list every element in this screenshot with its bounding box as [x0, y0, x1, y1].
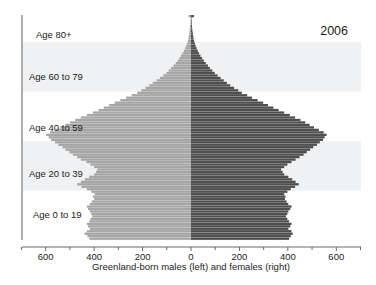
male-bar [92, 200, 191, 202]
female-bar [191, 99, 258, 101]
female-bar [191, 94, 247, 96]
female-bar [191, 195, 285, 197]
female-bar [191, 131, 324, 133]
female-bar [191, 233, 293, 235]
male-bar [82, 186, 191, 188]
female-bar [191, 161, 291, 163]
male-bar [186, 45, 191, 47]
age-label-40-59: Age 40 to 59 [29, 122, 83, 133]
male-bar [81, 116, 191, 118]
male-bar [86, 161, 191, 163]
male-bar [91, 213, 191, 215]
female-bar [191, 208, 290, 210]
male-bar [90, 203, 191, 205]
female-bar [191, 178, 292, 180]
female-bar [191, 218, 287, 220]
female-bar [191, 223, 291, 225]
female-bar [191, 35, 193, 37]
female-bar [191, 114, 290, 116]
male-bar [87, 230, 191, 232]
male-bar [120, 99, 191, 101]
male-bar [185, 47, 191, 49]
male-bar [81, 158, 191, 160]
male-bar [87, 205, 191, 207]
female-bar [191, 82, 227, 84]
female-bar [191, 57, 202, 59]
x-tick-label: 600 [328, 251, 344, 262]
female-bar [191, 111, 284, 113]
male-bar [109, 104, 191, 106]
female-bar [191, 230, 291, 232]
male-bar [132, 94, 191, 96]
male-bar [94, 173, 191, 175]
male-bar [115, 102, 191, 104]
male-bar [190, 30, 191, 32]
male-bar [91, 191, 191, 193]
female-bar [191, 141, 320, 143]
male-bar [85, 178, 191, 180]
male-bar [145, 87, 191, 89]
female-bar [191, 158, 296, 160]
female-bar [191, 134, 327, 136]
male-bar [65, 124, 191, 126]
female-bar [191, 193, 284, 195]
male-bar [189, 35, 191, 37]
female-bar [191, 225, 290, 227]
age-label-0-19: Age 0 to 19 [33, 209, 82, 220]
female-bar [191, 153, 304, 155]
female-bar [191, 62, 206, 64]
female-bar [191, 92, 242, 94]
female-bar [191, 32, 193, 34]
male-bar [179, 57, 191, 59]
male-bar [160, 77, 191, 79]
female-bar [191, 235, 291, 237]
female-bar [191, 20, 192, 22]
male-bar [88, 208, 191, 210]
female-bar [191, 72, 215, 74]
female-bar [191, 191, 287, 193]
male-bar [87, 223, 191, 225]
age-label-20-39: Age 20 to 39 [29, 168, 83, 179]
male-bar [95, 193, 191, 195]
female-bar [191, 156, 299, 158]
female-bar [191, 176, 288, 178]
male-bar [92, 215, 191, 217]
male-bar [104, 106, 191, 108]
male-bar [174, 64, 191, 66]
female-bar [191, 37, 194, 39]
female-bar [191, 64, 208, 66]
female-bar [191, 119, 300, 121]
male-bar [90, 228, 191, 230]
female-bar [191, 171, 283, 173]
female-bar [191, 126, 314, 128]
age-label-60-79: Age 60 to 79 [29, 71, 83, 82]
female-bar [191, 173, 284, 175]
female-bar [191, 139, 323, 141]
male-bar [188, 37, 191, 39]
male-bar [88, 225, 191, 227]
male-bar [46, 134, 191, 136]
female-bar [191, 52, 199, 54]
female-bar [191, 45, 196, 47]
female-bar [191, 27, 192, 29]
male-bar [93, 195, 191, 197]
female-bar [191, 89, 238, 91]
female-bar [191, 200, 287, 202]
male-bar [91, 163, 191, 165]
female-bar [191, 121, 305, 123]
female-bar [191, 104, 268, 106]
female-bar [191, 60, 204, 62]
male-bar [94, 198, 191, 200]
male-bar [187, 42, 191, 44]
female-bar [191, 129, 319, 131]
x-axis-title: Greenland-born males (left) and females … [92, 261, 290, 272]
male-bar [89, 220, 191, 222]
male-bar [190, 25, 191, 27]
female-bar [191, 87, 234, 89]
male-bar [181, 55, 191, 57]
male-bar [87, 235, 191, 237]
female-bar [191, 228, 288, 230]
male-bar [178, 60, 191, 62]
female-bar [191, 47, 197, 49]
male-bar [66, 149, 191, 151]
